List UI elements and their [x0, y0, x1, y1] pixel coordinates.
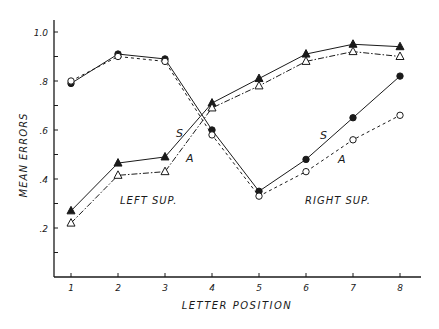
axes: .2.4.6.81.012345678: [34, 20, 421, 293]
open-circle-marker: [209, 132, 215, 138]
filled-triangle-marker: [396, 42, 404, 50]
annotation-left-sup: LEFT SUP.: [120, 195, 177, 206]
y-axis-label: MEAN ERRORS: [18, 113, 29, 198]
series-left-sup-s: [67, 40, 404, 214]
open-triangle-marker: [396, 52, 404, 60]
annotation-s: S: [176, 127, 183, 140]
open-triangle-marker: [114, 171, 122, 179]
open-circle-marker: [115, 53, 121, 59]
annotation-right-sup: RIGHT SUP.: [305, 195, 371, 206]
open-triangle-marker: [349, 47, 357, 55]
annotation-a: A: [185, 152, 194, 165]
open-circle-marker: [397, 112, 403, 118]
x-tick-label: 7: [350, 283, 356, 293]
x-tick-label: 5: [256, 283, 262, 293]
y-tick-label: 1.0: [34, 28, 49, 38]
open-circle-marker: [303, 168, 309, 174]
filled-circle-marker: [397, 73, 403, 79]
series-line: [71, 54, 400, 191]
y-tick-label: .6: [39, 126, 48, 136]
line-chart: .2.4.6.81.012345678 LEFT SUP.RIGHT SUP.S…: [0, 0, 439, 329]
y-tick-label: .8: [39, 77, 48, 87]
y-tick-label: .2: [39, 224, 48, 234]
y-tick-label: .4: [39, 175, 48, 185]
x-tick-label: 8: [397, 283, 403, 293]
annotation-s: S: [320, 129, 327, 142]
open-circle-marker: [68, 78, 74, 84]
x-tick-label: 1: [68, 283, 74, 293]
filled-circle-marker: [303, 156, 309, 162]
annotations: LEFT SUP.RIGHT SUP.SASA: [120, 127, 371, 206]
x-axis-label: LETTER POSITION: [182, 300, 293, 311]
x-tick-label: 6: [303, 283, 309, 293]
open-circle-marker: [350, 137, 356, 143]
x-tick-label: 4: [209, 283, 215, 293]
x-tick-label: 3: [162, 283, 168, 293]
open-circle-marker: [162, 58, 168, 64]
filled-circle-marker: [350, 115, 356, 121]
open-triangle-marker: [255, 81, 263, 89]
x-tick-label: 2: [115, 283, 121, 293]
annotation-a: A: [337, 153, 346, 166]
open-circle-marker: [256, 193, 262, 199]
series-line: [71, 44, 400, 211]
